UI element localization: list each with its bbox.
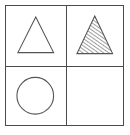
blank-answer-area[interactable] [67, 67, 124, 126]
matrix-reasoning-figure [0, 0, 130, 135]
matrix-cell-top-left[interactable] [6, 6, 66, 66]
matrix-cell-top-right[interactable] [67, 6, 124, 66]
matrix-frame [5, 5, 124, 126]
circle-plain-icon [6, 67, 66, 126]
matrix-cell-bottom-right[interactable] [67, 67, 124, 126]
triangle-plain-icon [6, 6, 66, 66]
triangle-hatched-icon [67, 6, 124, 66]
matrix-cell-bottom-left[interactable] [6, 67, 66, 126]
